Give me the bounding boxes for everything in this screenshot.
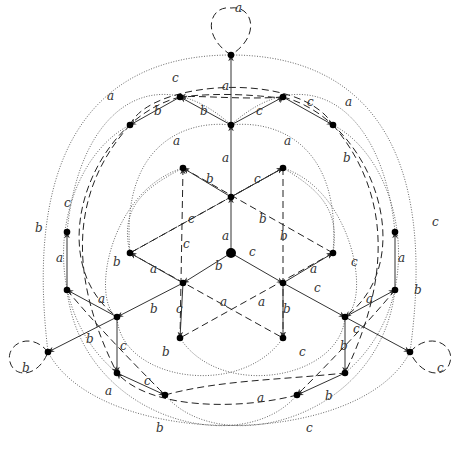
edge-label: a bbox=[345, 95, 352, 109]
graph-node-r2 bbox=[392, 287, 399, 294]
edge-label: c bbox=[299, 345, 306, 359]
edge-label: a bbox=[366, 292, 373, 306]
graph-node-n1 bbox=[228, 122, 235, 129]
edge-label: b bbox=[113, 255, 121, 269]
graph-node-left bbox=[45, 349, 52, 356]
edge-label: c bbox=[120, 339, 127, 353]
edge-label: a bbox=[284, 134, 291, 148]
graph-node-center bbox=[226, 248, 236, 258]
loops bbox=[9, 8, 450, 373]
edge-label: c bbox=[256, 104, 263, 118]
edge-label: a bbox=[220, 295, 227, 309]
edge-label: b bbox=[156, 421, 164, 435]
edge-label: c bbox=[432, 215, 439, 229]
graph-node-l2 bbox=[64, 287, 71, 294]
solid-edges bbox=[48, 55, 410, 395]
graph-node-b1 bbox=[114, 370, 121, 377]
edge-label: c bbox=[254, 172, 261, 186]
nodes bbox=[45, 52, 414, 399]
graph-node-i2 bbox=[280, 165, 287, 172]
edge-label: b bbox=[22, 361, 30, 375]
graph-node-n2 bbox=[177, 94, 184, 101]
edge-label: b bbox=[343, 151, 351, 165]
edge-label: a bbox=[398, 251, 405, 265]
edge-label: b bbox=[162, 345, 170, 359]
edge-label: c bbox=[64, 196, 71, 210]
edge-label: b bbox=[259, 212, 267, 226]
edge-label: b bbox=[280, 229, 288, 243]
edge-label: c bbox=[351, 255, 358, 269]
loop-a bbox=[211, 8, 250, 55]
edge-label: c bbox=[353, 322, 360, 336]
edge-label: c bbox=[249, 245, 256, 259]
edge-label: a bbox=[310, 262, 317, 276]
dotted-edges bbox=[43, 55, 416, 426]
edge-label: a bbox=[235, 1, 242, 15]
edge-label: c bbox=[183, 237, 190, 251]
edge-label: a bbox=[173, 134, 180, 148]
edge-label: b bbox=[414, 283, 422, 297]
edge-label: a bbox=[222, 229, 229, 243]
edge-label: a bbox=[105, 384, 112, 398]
graph-node-i8 bbox=[177, 335, 184, 342]
graph-node-right bbox=[407, 349, 414, 356]
graph-node-l1 bbox=[64, 229, 71, 236]
edge-label: b bbox=[35, 221, 43, 235]
edge-label: c bbox=[188, 212, 195, 226]
edge-label: b bbox=[150, 302, 158, 316]
edge-label: c bbox=[437, 361, 444, 375]
edge-label: b bbox=[86, 332, 94, 346]
graph-node-i4 bbox=[180, 280, 187, 287]
edge-label: c bbox=[306, 421, 313, 435]
graph-node-r3 bbox=[342, 314, 349, 321]
graph-canvas: aacbbccaaaaabcbcbacbcbaaaacbcbcabcabcaab… bbox=[0, 0, 462, 454]
graph-diagram: aacbbccaaaaabcbcbacbcbaaaacbcbcabcabcaab… bbox=[0, 0, 462, 454]
edge-label: b bbox=[325, 389, 333, 403]
edge-label: b bbox=[200, 104, 208, 118]
graph-node-i5 bbox=[280, 280, 287, 287]
edge-label: a bbox=[98, 292, 105, 306]
edge-label: c bbox=[176, 302, 183, 316]
graph-node-b3 bbox=[294, 392, 301, 399]
edge-label: b bbox=[215, 259, 223, 273]
graph-node-top bbox=[228, 52, 235, 59]
edge-label: a bbox=[257, 391, 264, 405]
edge-label: b bbox=[340, 339, 348, 353]
graph-node-b2 bbox=[162, 392, 169, 399]
graph-node-r1 bbox=[392, 229, 399, 236]
graph-node-i3 bbox=[228, 194, 235, 201]
edge-label: c bbox=[314, 281, 321, 295]
edge-label: a bbox=[258, 295, 265, 309]
graph-node-i9 bbox=[280, 335, 287, 342]
graph-node-n4 bbox=[127, 122, 134, 129]
edge-label: a bbox=[150, 262, 157, 276]
edge-label: c bbox=[172, 71, 179, 85]
graph-node-i6 bbox=[127, 250, 134, 257]
edge-label: b bbox=[206, 172, 214, 186]
edge-labels: aacbbccaaaaabcbcbacbcbaaaacbcbcabcabcaab… bbox=[22, 1, 444, 435]
graph-node-b4 bbox=[342, 370, 349, 377]
edge-label: a bbox=[107, 89, 114, 103]
graph-node-l3 bbox=[114, 314, 121, 321]
edge-label: a bbox=[56, 251, 63, 265]
edge-label: a bbox=[222, 151, 229, 165]
graph-node-i7 bbox=[330, 250, 337, 257]
graph-node-n3 bbox=[280, 94, 287, 101]
graph-node-i1 bbox=[180, 165, 187, 172]
edge-label: b bbox=[283, 302, 291, 316]
loop-c bbox=[410, 341, 451, 373]
edge-label: c bbox=[144, 374, 151, 388]
edge-label: b bbox=[154, 104, 162, 118]
edge-label: a bbox=[222, 79, 229, 93]
graph-node-n5 bbox=[330, 122, 337, 129]
edge-label: c bbox=[307, 95, 314, 109]
